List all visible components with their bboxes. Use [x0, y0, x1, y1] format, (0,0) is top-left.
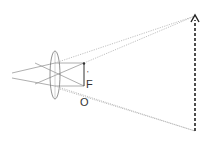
- virtual-rays: [55, 16, 195, 131]
- object-arrow: [83, 62, 85, 86]
- incident-rays: [12, 63, 84, 86]
- diagram-canvas: [0, 0, 207, 142]
- focal-point-label: F: [86, 79, 93, 90]
- ray-diagram: ' F O: [0, 0, 207, 142]
- focal-tick-label: ': [87, 70, 89, 78]
- image-arrow: [191, 15, 199, 131]
- object-label: O: [80, 97, 89, 108]
